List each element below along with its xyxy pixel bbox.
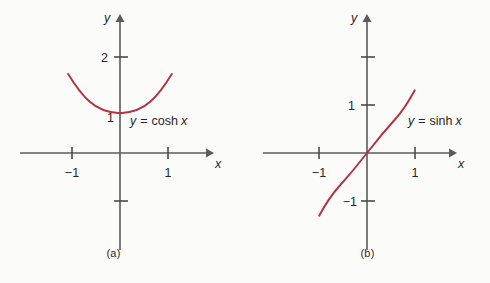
y-ticks-a <box>114 57 128 201</box>
sinh-label-eq: = <box>418 114 425 128</box>
y-ticks-b <box>361 57 375 201</box>
x-axis-name-b: x <box>457 157 465 171</box>
sinh-plot: −1 1 1 −1 x y y=sinhx <box>245 0 490 283</box>
y-tick-label-1-a: 1 <box>107 111 114 125</box>
cosh-label-x: x <box>180 114 188 128</box>
figure-container: −1 1 2 1 x y y=coshx (a) <box>0 0 490 283</box>
x-axis-a <box>20 149 214 158</box>
y-axis-a <box>116 14 125 250</box>
cosh-label-fn: cosh <box>152 114 178 128</box>
y-tick-label-neg1-b: −1 <box>343 195 357 209</box>
cosh-curve-label: y=coshx <box>129 114 188 128</box>
svg-text:y=sinhx: y=sinhx <box>407 114 463 128</box>
cosh-plot: −1 1 2 1 x y y=coshx <box>0 0 245 283</box>
cosh-label-y: y <box>129 114 137 128</box>
x-tick-label-1-a: 1 <box>165 166 172 180</box>
y-axis-name-b: y <box>350 11 358 25</box>
panel-caption-a: (a) <box>0 247 236 259</box>
sinh-label-x: x <box>455 114 463 128</box>
x-axis-name-a: x <box>214 157 222 171</box>
sinh-label-y: y <box>407 114 415 128</box>
svg-text:y=coshx: y=coshx <box>129 114 188 128</box>
x-tick-label-neg1-b: −1 <box>312 166 326 180</box>
x-tick-label-1-b: 1 <box>412 166 419 180</box>
panel-caption-b: (b) <box>245 247 490 259</box>
panel-sinh: −1 1 1 −1 x y y=sinhx (b) <box>245 0 490 283</box>
sinh-curve-label: y=sinhx <box>407 114 463 128</box>
y-tick-label-2-a: 2 <box>101 51 108 65</box>
y-axis-b <box>363 14 372 250</box>
x-axis-b <box>263 149 457 158</box>
y-tick-label-1-b: 1 <box>348 99 355 113</box>
sinh-label-fn: sinh <box>430 114 453 128</box>
panel-cosh: −1 1 2 1 x y y=coshx (a) <box>0 0 245 283</box>
x-tick-label-neg1-a: −1 <box>65 166 79 180</box>
cosh-label-eq: = <box>140 114 147 128</box>
y-axis-name-a: y <box>103 11 111 25</box>
